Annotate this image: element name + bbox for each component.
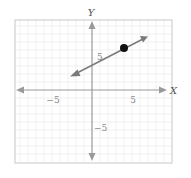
x-axis-label: X [169,85,178,96]
y-tick-label-neg5: −5 [94,123,108,133]
grid-lines [15,20,172,163]
y-axis-label: Y [88,7,96,18]
y-axis-down-arrow-icon [89,153,96,161]
y-axis-up-arrow-icon [89,21,96,29]
x-tick-label-pos5: 5 [130,95,136,105]
x-tick-label-neg5: −5 [46,95,60,105]
line-left-arrow-icon [70,70,81,77]
plotted-point [120,44,128,52]
coordinate-plane: X Y −5 5 5 −5 [0,0,191,178]
x-axis-right-arrow-icon [159,87,167,94]
